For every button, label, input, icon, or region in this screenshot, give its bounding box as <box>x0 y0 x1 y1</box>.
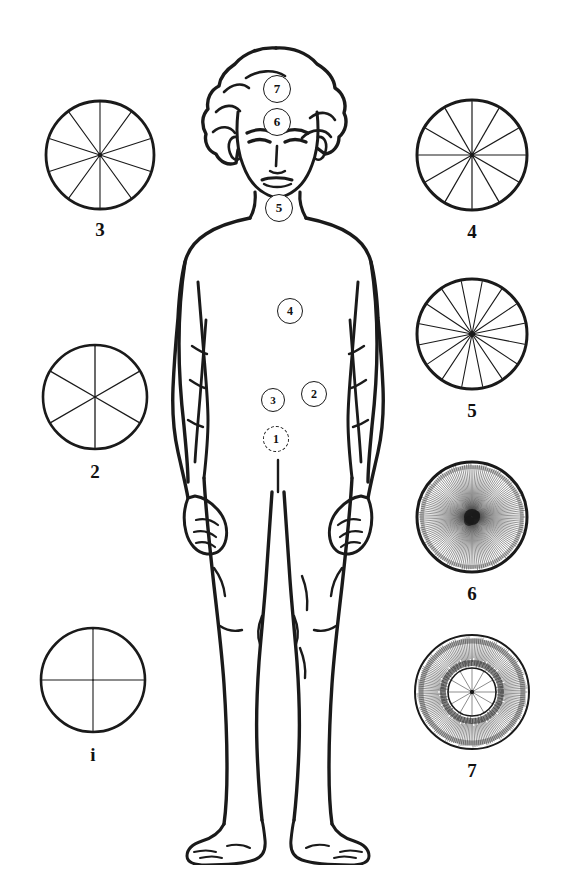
chakra-diagram-page: 7 6 5 4 3 2 1 i234567 <box>0 0 563 889</box>
body-marker-1-label: 1 <box>273 432 279 447</box>
wheel-1-spokes <box>42 629 143 730</box>
body-marker-7-label: 7 <box>274 81 281 97</box>
wheel-4-label: 4 <box>410 222 534 241</box>
wheel-6-svg <box>410 455 534 579</box>
body-marker-6-label: 6 <box>274 114 281 130</box>
wheel-5-label: 5 <box>410 401 534 420</box>
body-marker-4-label: 4 <box>287 304 293 319</box>
wheel-7-label: 7 <box>408 761 536 780</box>
wheel-3[interactable]: 3 <box>40 95 160 239</box>
body-marker-4[interactable]: 4 <box>277 298 303 324</box>
body-marker-3-label: 3 <box>270 394 276 406</box>
wheel-2[interactable]: 2 <box>35 337 155 481</box>
wheel-3-label: 3 <box>40 220 160 239</box>
wheel-3-svg <box>40 95 160 215</box>
body-marker-5-label: 5 <box>276 200 283 216</box>
wheel-6-label: 6 <box>410 584 534 603</box>
wheel-1-label: i <box>33 745 153 764</box>
wheel-2-svg <box>35 337 155 457</box>
wheel-4[interactable]: 4 <box>410 93 534 241</box>
body-marker-2[interactable]: 2 <box>301 381 327 407</box>
wheel-1-svg <box>33 620 153 740</box>
wheel-1[interactable]: i <box>33 620 153 764</box>
wheel-6[interactable]: 6 <box>410 455 534 603</box>
body-marker-2-label: 2 <box>311 387 317 402</box>
wheel-2-label: 2 <box>35 462 155 481</box>
wheel-5-svg <box>410 272 534 396</box>
body-marker-3[interactable]: 3 <box>261 388 285 412</box>
wheel-7[interactable]: 7 <box>408 628 536 780</box>
wheel-4-svg <box>410 93 534 217</box>
wheel-5[interactable]: 5 <box>410 272 534 420</box>
wheel-7-svg <box>408 628 536 756</box>
human-body-figure: 7 6 5 4 3 2 1 <box>150 20 420 865</box>
body-marker-7[interactable]: 7 <box>263 75 291 103</box>
body-marker-1[interactable]: 1 <box>263 426 289 452</box>
body-marker-5[interactable]: 5 <box>265 194 293 222</box>
body-marker-6[interactable]: 6 <box>263 108 291 136</box>
wheel-2-spokes <box>51 346 139 447</box>
